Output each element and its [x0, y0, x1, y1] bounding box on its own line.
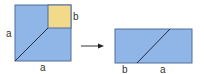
- small-square-b: [48, 5, 71, 28]
- label-small-square-b: b: [73, 11, 79, 22]
- label-right-b: b: [122, 64, 128, 74]
- arrow-right-icon: [98, 44, 104, 49]
- label-right-a: a: [160, 64, 166, 74]
- label-left-side-a: a: [6, 28, 12, 39]
- diagram-canvas: a a b b a: [0, 0, 204, 74]
- label-bottom-side-a: a: [40, 62, 46, 73]
